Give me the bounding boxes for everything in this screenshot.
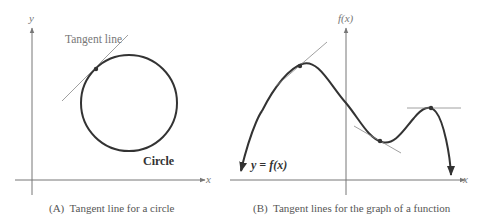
tangent-point-2 [378,139,382,143]
circle-label: Circle [143,154,174,169]
tangent-line-1 [276,42,327,86]
panel-a-caption: (A) Tangent line for a circle [49,202,174,214]
panel-b-caption: (B) Tangent lines for the graph of a fun… [253,202,450,214]
tangent-point [94,67,98,71]
panel-b-x-axis-label: x [463,173,468,185]
curve-label: y = f(x) [251,158,287,173]
panel-a-y-axis-label: y [29,12,34,24]
tangent-line-label: Tangent line [65,33,122,45]
panel-b-y-axis-label: f(x) [338,12,353,24]
curve-left-arrow [241,163,243,171]
tangent-point-3 [429,106,433,110]
panel-a [15,28,205,195]
tangent-point-1 [298,64,302,68]
panel-a-x-axis-label: x [206,173,211,185]
